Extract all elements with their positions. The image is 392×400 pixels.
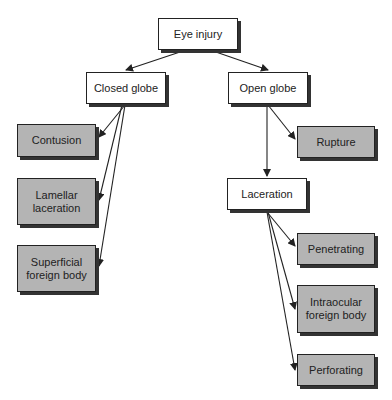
- node-laceration: Laceration: [227, 178, 307, 210]
- node-open-globe: Open globe: [228, 72, 308, 104]
- node-intraocular-foreign-body: Intraocular foreign body: [297, 285, 375, 333]
- node-closed-globe: Closed globe: [86, 72, 166, 104]
- node-contusion: Contusion: [17, 124, 96, 157]
- node-perforating: Perforating: [297, 354, 375, 386]
- node-eye-injury: Eye injury: [158, 18, 238, 50]
- node-rupture: Rupture: [297, 126, 375, 158]
- node-superficial-foreign-body: Superficial foreign body: [17, 245, 96, 292]
- node-penetrating: Penetrating: [297, 233, 375, 265]
- node-lamellar-laceration: Lamellar laceration: [17, 178, 96, 225]
